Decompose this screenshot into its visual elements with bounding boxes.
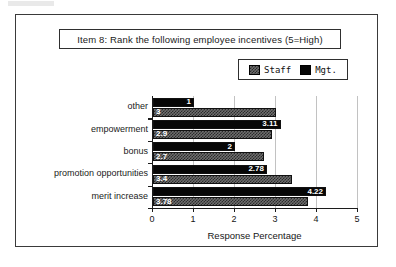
bar-mgt: 2.78 xyxy=(153,165,267,174)
bar-mgt: 4.22 xyxy=(153,187,326,196)
category-label: other xyxy=(0,101,153,111)
category-label: promotion opportunities xyxy=(0,168,153,178)
x-tick-label: 3 xyxy=(272,214,277,224)
bar-mgt: 3.11 xyxy=(153,120,281,129)
category-label: empowerment xyxy=(0,124,153,134)
x-tick-label: 5 xyxy=(354,214,359,224)
category-label: bonus xyxy=(0,146,153,156)
bar-value-label: 3.4 xyxy=(156,175,167,183)
x-tick-label: 1 xyxy=(190,214,195,224)
gridline xyxy=(357,96,358,208)
bar-value-label: 3 xyxy=(156,108,160,116)
bar-staff: 3.4 xyxy=(153,175,292,184)
legend-label-mgt: Mgt. xyxy=(315,65,337,75)
y-tick xyxy=(148,208,153,209)
bar-value-label: 1 xyxy=(187,98,193,106)
legend-item-staff: Staff xyxy=(249,65,291,75)
x-tick xyxy=(275,208,276,212)
legend-swatch-mgt-icon xyxy=(300,65,311,75)
bar-value-label: 2.78 xyxy=(248,165,266,173)
bar-value-label: 2 xyxy=(228,143,234,151)
legend-label-staff: Staff xyxy=(264,65,291,75)
x-tick xyxy=(193,208,194,212)
x-tick-label: 0 xyxy=(149,214,154,224)
bar-value-label: 4.22 xyxy=(307,188,325,196)
page-title: Item 8: Rank the following employee ince… xyxy=(77,34,323,45)
legend-swatch-staff-icon xyxy=(249,65,260,75)
category-label: merit increase xyxy=(0,191,153,201)
chart-legend: Staff Mgt. xyxy=(238,59,348,80)
bar-value-label: 3.78 xyxy=(156,198,172,206)
legend-item-mgt: Mgt. xyxy=(300,65,337,75)
bar-mgt: 1 xyxy=(153,98,194,107)
x-axis-title: Response Percentage xyxy=(152,230,357,241)
bar-staff: 3 xyxy=(153,108,276,117)
scan-artifact xyxy=(8,1,54,6)
bar-value-label: 3.11 xyxy=(262,120,279,128)
x-tick xyxy=(357,208,358,212)
bar-value-label: 2.9 xyxy=(156,130,167,138)
bar-mgt: 2 xyxy=(153,142,235,151)
bar-staff: 2.9 xyxy=(153,130,272,139)
plot-area: 012345 other13empowerment3.112.9bonus22.… xyxy=(152,96,357,208)
x-tick xyxy=(234,208,235,212)
chart-title-box: Item 8: Rank the following employee ince… xyxy=(59,29,341,49)
x-tick-label: 4 xyxy=(313,214,318,224)
bar-staff: 3.78 xyxy=(153,197,308,206)
x-tick-label: 2 xyxy=(231,214,236,224)
x-tick xyxy=(316,208,317,212)
bar-value-label: 2.7 xyxy=(156,153,167,161)
x-axis-line xyxy=(151,208,358,209)
bar-staff: 2.7 xyxy=(153,152,264,161)
